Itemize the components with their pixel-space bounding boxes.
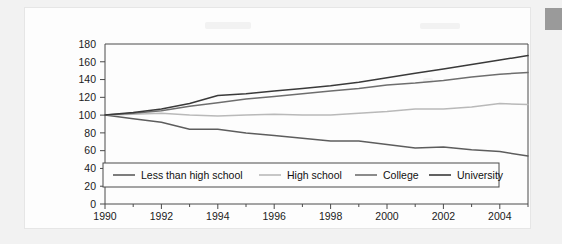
y-tick-label: 180 (78, 38, 96, 50)
legend-label-high-school: High school (287, 169, 342, 181)
chart-svg: 020406080100120140160180 199019921994199… (25, 8, 530, 228)
legend-label-college: College (383, 169, 419, 181)
y-tick-label: 80 (84, 127, 96, 139)
x-axis-tick-labels: 19901992199419961998200020022004 (93, 210, 511, 222)
line-chart: 020406080100120140160180 199019921994199… (25, 8, 530, 228)
x-tick-label: 2004 (488, 210, 512, 222)
data-series-group (105, 56, 528, 156)
x-tick-label: 1990 (93, 210, 117, 222)
y-tick-label: 40 (84, 162, 96, 174)
series-line-university (105, 56, 528, 116)
x-tick-label: 1996 (263, 210, 287, 222)
corner-gray-block (545, 8, 562, 30)
x-tick-label: 1994 (206, 210, 230, 222)
x-tick-label: 1998 (319, 210, 343, 222)
legend-label-less-than-high-school: Less than high school (141, 169, 243, 181)
y-tick-label: 100 (78, 109, 96, 121)
y-tick-label: 60 (84, 144, 96, 156)
x-tick-label: 2000 (375, 210, 399, 222)
x-tick-label: 1992 (150, 210, 174, 222)
y-tick-label: 120 (78, 91, 96, 103)
x-axis-tick-marks (105, 204, 528, 209)
figure-card: 020406080100120140160180 199019921994199… (25, 8, 530, 228)
y-tick-label: 0 (90, 198, 96, 210)
y-axis-tick-labels: 020406080100120140160180 (78, 38, 96, 210)
y-tick-label: 140 (78, 73, 96, 85)
series-line-college (105, 72, 528, 115)
y-tick-label: 20 (84, 180, 96, 192)
y-tick-label: 160 (78, 56, 96, 68)
chart-legend: Less than high schoolHigh schoolCollegeU… (103, 163, 504, 187)
legend-label-university: University (457, 169, 504, 181)
series-line-less-than-high-school (105, 115, 528, 156)
page-background: 020406080100120140160180 199019921994199… (0, 0, 562, 244)
x-tick-label: 2002 (432, 210, 456, 222)
